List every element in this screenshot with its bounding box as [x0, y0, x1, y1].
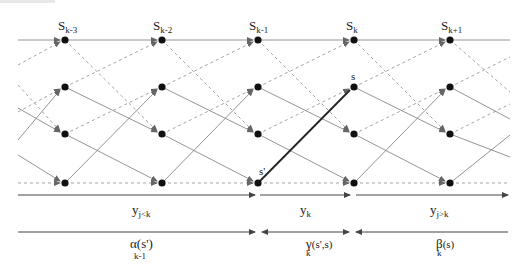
node	[254, 36, 261, 43]
stage-label-k: Sk	[346, 18, 358, 35]
state-label-s: s	[351, 70, 355, 82]
node-s-prime	[254, 179, 261, 186]
node	[61, 83, 68, 90]
node	[350, 179, 357, 186]
highlighted-transition	[258, 90, 350, 183]
node	[158, 130, 165, 137]
stage-labels: Sk-3 Sk-2 Sk-1 Sk Sk+1	[58, 18, 462, 35]
trellis-nodes	[61, 36, 453, 186]
observation-axis: yj<k yk yj>k	[18, 195, 508, 219]
node	[446, 83, 453, 90]
observation-label-future: yj>k	[430, 202, 449, 219]
alpha-label: α(s')	[130, 236, 153, 251]
node	[350, 36, 357, 43]
node	[254, 83, 261, 90]
stage-label-k-2: Sk-2	[153, 18, 172, 35]
node	[61, 130, 68, 137]
edges-dashed	[18, 40, 510, 134]
observation-label-past: yj<k	[132, 202, 151, 219]
node	[158, 36, 165, 43]
alpha-sub: k-1	[134, 251, 146, 261]
node	[446, 36, 453, 43]
node	[446, 130, 453, 137]
node-s	[350, 83, 357, 90]
node	[446, 179, 453, 186]
stage-label-k-3: Sk-3	[58, 18, 78, 35]
gamma-sub: k	[306, 248, 311, 258]
state-label-s-prime: s'	[259, 165, 265, 177]
node	[158, 83, 165, 90]
observation-label-current: yk	[300, 202, 312, 219]
node	[61, 179, 68, 186]
node	[158, 179, 165, 186]
node	[350, 130, 357, 137]
node	[254, 130, 261, 137]
beta-sub: k	[437, 248, 442, 258]
trellis-diagram: Sk-3 Sk-2 Sk-1 Sk Sk+1	[0, 0, 528, 266]
node	[61, 36, 68, 43]
stage-label-k+1: Sk+1	[441, 18, 462, 35]
metric-axis: α(s') k-1 γ(s',s) k β(s) k	[18, 232, 508, 261]
stage-label-k-1: Sk-1	[249, 18, 268, 35]
